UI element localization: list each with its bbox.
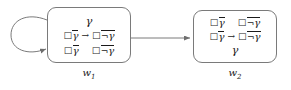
self-loop-arrow-w1 — [11, 17, 47, 52]
box-modal-icon: □ — [92, 31, 101, 40]
kripke-diagram: γ □γ→□¬γ □γ□¬γ □γ□¬γ □γ→□¬γ γ w1 w2 — [0, 0, 291, 90]
gamma-symbol: γ — [218, 31, 224, 42]
gamma-symbol: γ — [109, 30, 115, 41]
box-modal-icon: □ — [210, 18, 219, 27]
world-box-w1: γ □γ→□¬γ □γ□¬γ — [47, 7, 131, 63]
gamma-symbol: γ — [255, 31, 261, 42]
negation-symbol: ¬ — [101, 31, 109, 41]
world-label-base: w — [82, 67, 91, 78]
implication-arrow-icon: → — [81, 31, 89, 40]
gamma-symbol: γ — [108, 45, 114, 56]
gamma-symbol: γ — [254, 17, 260, 28]
formula-stack-w2: □γ□¬γ □γ→□¬γ γ — [194, 11, 276, 62]
gamma-symbol: γ — [72, 30, 78, 41]
world-label-w1: w1 — [47, 68, 131, 81]
world-label-w2: w2 — [193, 68, 277, 81]
box-modal-icon: □ — [92, 46, 101, 55]
negation-symbol: ¬ — [247, 32, 255, 42]
implication-arrow-icon: → — [227, 32, 235, 41]
world-box-w2: □γ□¬γ □γ→□¬γ γ — [193, 10, 277, 63]
box-modal-icon: □ — [64, 46, 73, 55]
formula-line-pair: □γ□¬γ — [210, 17, 261, 28]
formula-line-gamma-top: γ — [86, 16, 93, 27]
box-modal-icon: □ — [209, 32, 218, 41]
formula-stack-w1: γ □γ→□¬γ □γ□¬γ — [48, 8, 130, 62]
formula-line-implication: □γ→□¬γ — [63, 30, 114, 41]
world-label-base: w — [228, 67, 237, 78]
box-modal-icon: □ — [238, 18, 247, 27]
gamma-symbol: γ — [219, 17, 225, 28]
formula-line-implication: □γ→□¬γ — [209, 31, 260, 42]
world-label-subscript: 2 — [237, 73, 241, 81]
world-label-subscript: 1 — [91, 73, 95, 81]
formula-line-pair: □γ□¬γ — [64, 45, 115, 56]
formula-line-gamma-bottom: γ — [232, 45, 239, 56]
gamma-symbol: γ — [73, 45, 79, 56]
box-modal-icon: □ — [238, 32, 247, 41]
box-modal-icon: □ — [63, 31, 72, 40]
